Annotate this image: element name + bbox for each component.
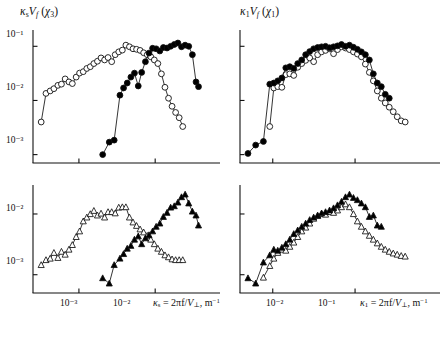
ylabel-paren-close: )	[54, 5, 58, 17]
ytick-label-1: 10⁻³	[6, 255, 23, 266]
xtick-label-1: 10⁻²	[113, 297, 130, 308]
panel-bottom-left-xaxis-title: κs = 2πf/V⊥, m−1	[153, 297, 220, 309]
panel-top-right-ylabel: κ1Vf (χ1)	[240, 5, 279, 19]
ytick-label-1: 10⁻²	[6, 81, 23, 92]
ylabel-paren-close: )	[275, 5, 279, 17]
plot-canvas-bottom-right	[220, 175, 440, 339]
ylabel-paren-open: (	[259, 5, 266, 17]
plot-canvas-bottom-left	[0, 175, 220, 339]
xtick-label-1: 10⁻¹	[318, 297, 335, 308]
xtitle-body: = 2πf/	[160, 297, 187, 308]
xtick-label-0: 10⁻³	[60, 297, 77, 308]
panel-bottom-left: 10⁻² 10⁻³ 10⁻³ 10⁻² κs = 2πf/V⊥, m−1	[0, 175, 220, 339]
xtick-label-0: 10⁻²	[266, 297, 283, 308]
figure-root: κsVf (χ3) 10⁻¹ 10⁻² 10⁻³ κ1Vf (χ1) 10⁻² …	[0, 0, 440, 339]
ytick-label-2: 10⁻³	[6, 134, 23, 145]
plot-canvas-top-right	[220, 0, 440, 175]
xtitle-units-sup: −1	[213, 297, 220, 304]
panel-top-left: κsVf (χ3) 10⁻¹ 10⁻² 10⁻³	[0, 0, 220, 175]
ylabel-v: V	[29, 5, 36, 17]
xtitle-units-sup: −1	[420, 297, 427, 304]
panel-top-left-ylabel: κsVf (χ3)	[20, 5, 58, 19]
ylabel-v: V	[250, 5, 257, 17]
xtitle-units: , m	[200, 297, 213, 308]
panel-bottom-right-xaxis-title: κ1 = 2πf/V⊥, m−1	[360, 297, 428, 309]
plot-canvas-top-left	[0, 0, 220, 175]
ytick-label-0: 10⁻²	[6, 202, 23, 213]
panel-bottom-right: 10⁻² 10⁻¹ κ1 = 2πf/V⊥, m−1	[220, 175, 440, 339]
xtitle-body: = 2πf/	[368, 297, 395, 308]
panel-top-right: κ1Vf (χ1)	[220, 0, 440, 175]
xtitle-units: , m	[408, 297, 421, 308]
ytick-label-0: 10⁻¹	[6, 28, 23, 39]
